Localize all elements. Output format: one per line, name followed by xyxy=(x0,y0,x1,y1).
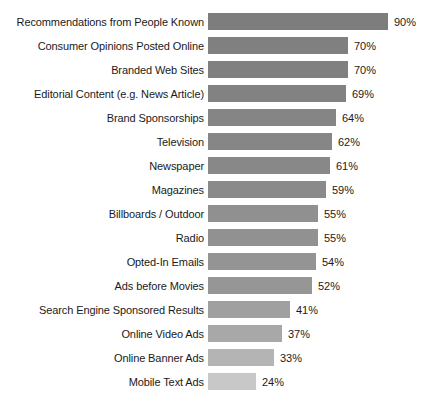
bar-zone: 55% xyxy=(208,229,346,246)
bar-zone: 62% xyxy=(208,133,360,150)
bar-value-label: 24% xyxy=(262,376,284,388)
bar-zone: 41% xyxy=(208,301,318,318)
chart-row: Recommendations from People Known90% xyxy=(0,13,436,30)
chart-row: Ads before Movies52% xyxy=(0,277,436,294)
bar-zone: 24% xyxy=(208,373,284,390)
bar xyxy=(208,253,316,270)
chart-row: Online Banner Ads33% xyxy=(0,349,436,366)
chart-row: Television62% xyxy=(0,133,436,150)
bar xyxy=(208,349,274,366)
bar-zone: 70% xyxy=(208,61,376,78)
category-label: Online Video Ads xyxy=(0,328,204,340)
chart-row: Opted-In Emails54% xyxy=(0,253,436,270)
bar-zone: 64% xyxy=(208,109,364,126)
bar-value-label: 61% xyxy=(336,160,358,172)
bar-zone: 69% xyxy=(208,85,374,102)
chart-row: Newspaper61% xyxy=(0,157,436,174)
bar xyxy=(208,61,348,78)
chart-row: Magazines59% xyxy=(0,181,436,198)
bar xyxy=(208,85,346,102)
bar-value-label: 54% xyxy=(322,256,344,268)
chart-row: Radio55% xyxy=(0,229,436,246)
chart-row: Billboards / Outdoor55% xyxy=(0,205,436,222)
bar-value-label: 70% xyxy=(354,40,376,52)
bar xyxy=(208,205,318,222)
bar-zone: 55% xyxy=(208,205,346,222)
category-label: Editorial Content (e.g. News Article) xyxy=(0,88,204,100)
bar-value-label: 41% xyxy=(296,304,318,316)
bar-value-label: 70% xyxy=(354,64,376,76)
bar-zone: 37% xyxy=(208,325,310,342)
chart-row: Branded Web Sites70% xyxy=(0,61,436,78)
bar-zone: 90% xyxy=(208,13,416,30)
chart-row: Editorial Content (e.g. News Article)69% xyxy=(0,85,436,102)
category-label: Online Banner Ads xyxy=(0,352,204,364)
bar-value-label: 52% xyxy=(318,280,340,292)
bar xyxy=(208,109,336,126)
bar xyxy=(208,181,326,198)
category-label: Radio xyxy=(0,232,204,244)
bar xyxy=(208,301,290,318)
bar-zone: 59% xyxy=(208,181,354,198)
bar-zone: 54% xyxy=(208,253,344,270)
category-label: Branded Web Sites xyxy=(0,64,204,76)
chart-row: Online Video Ads37% xyxy=(0,325,436,342)
category-label: Mobile Text Ads xyxy=(0,376,204,388)
chart-row: Mobile Text Ads24% xyxy=(0,373,436,390)
category-label: Recommendations from People Known xyxy=(0,16,204,28)
bar xyxy=(208,373,256,390)
chart-row: Consumer Opinions Posted Online70% xyxy=(0,37,436,54)
bar xyxy=(208,13,388,30)
bar-zone: 70% xyxy=(208,37,376,54)
bar-chart: Recommendations from People Known90%Cons… xyxy=(0,0,436,405)
bar-value-label: 55% xyxy=(324,208,346,220)
bar-value-label: 62% xyxy=(338,136,360,148)
category-label: Search Engine Sponsored Results xyxy=(0,304,204,316)
category-label: Brand Sponsorships xyxy=(0,112,204,124)
chart-row: Brand Sponsorships64% xyxy=(0,109,436,126)
bar-value-label: 69% xyxy=(352,88,374,100)
bar-value-label: 55% xyxy=(324,232,346,244)
category-label: Magazines xyxy=(0,184,204,196)
bar-value-label: 33% xyxy=(280,352,302,364)
bar-zone: 61% xyxy=(208,157,358,174)
category-label: Ads before Movies xyxy=(0,280,204,292)
category-label: Newspaper xyxy=(0,160,204,172)
category-label: Billboards / Outdoor xyxy=(0,208,204,220)
bar-value-label: 37% xyxy=(288,328,310,340)
bar-zone: 52% xyxy=(208,277,340,294)
bar xyxy=(208,277,312,294)
bar-value-label: 59% xyxy=(332,184,354,196)
category-label: Consumer Opinions Posted Online xyxy=(0,40,204,52)
bar xyxy=(208,229,318,246)
bar xyxy=(208,133,332,150)
bar-zone: 33% xyxy=(208,349,302,366)
category-label: Opted-In Emails xyxy=(0,256,204,268)
bar xyxy=(208,157,330,174)
category-label: Television xyxy=(0,136,204,148)
chart-row: Search Engine Sponsored Results41% xyxy=(0,301,436,318)
bar xyxy=(208,37,348,54)
bar xyxy=(208,325,282,342)
bar-value-label: 90% xyxy=(394,16,416,28)
bar-value-label: 64% xyxy=(342,112,364,124)
